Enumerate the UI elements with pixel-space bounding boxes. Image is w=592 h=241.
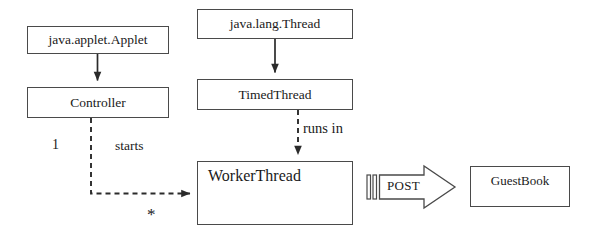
- class-label-timed-thread: TimedThread: [198, 87, 352, 103]
- edge-label-runs-in: runs in: [303, 120, 343, 137]
- multiplicity-label-one: 1: [52, 137, 59, 153]
- class-box-worker-thread[interactable]: WorkerThread: [197, 161, 353, 225]
- edge-label-starts: starts: [115, 138, 144, 154]
- edge-label-post: POST: [387, 178, 420, 194]
- class-label-guest-book: GuestBook: [471, 173, 569, 189]
- class-box-timed-thread[interactable]: TimedThread: [197, 79, 353, 110]
- uml-class-diagram: java.applet.Applet Controller java.lang.…: [0, 0, 592, 241]
- multiplicity-label-many: *: [147, 205, 156, 225]
- connector-controller-to-workerthread: [91, 118, 190, 194]
- class-label-controller: Controller: [28, 95, 168, 111]
- class-label-java-lang-thread: java.lang.Thread: [198, 16, 352, 32]
- class-box-controller[interactable]: Controller: [27, 87, 169, 118]
- class-label-java-applet-applet: java.applet.Applet: [28, 32, 168, 48]
- class-box-java-applet-applet[interactable]: java.applet.Applet: [27, 26, 169, 54]
- class-label-worker-thread: WorkerThread: [208, 167, 352, 185]
- class-box-guest-book[interactable]: GuestBook: [470, 166, 570, 207]
- class-box-java-lang-thread[interactable]: java.lang.Thread: [197, 9, 353, 39]
